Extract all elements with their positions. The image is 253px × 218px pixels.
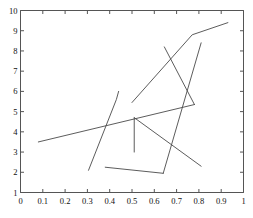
x-tick-label: 0.4 [104, 196, 115, 206]
y-tick-label: 3 [13, 147, 17, 157]
x-tick-label: 0.6 [149, 196, 160, 206]
x-tick-label: 0.1 [37, 196, 48, 206]
y-tick-label: 2 [13, 167, 17, 177]
y-tick-label: 10 [9, 6, 18, 16]
y-tick-label: 7 [13, 66, 17, 76]
y-tick-label: 5 [13, 107, 17, 117]
line-chart: 00.10.20.30.40.50.60.70.80.91 1234567891… [0, 0, 253, 218]
plot-area [0, 0, 253, 218]
x-tick-label: 1 [241, 196, 245, 206]
x-tick-label: 0.7 [171, 196, 182, 206]
x-tick-label: 0.9 [216, 196, 227, 206]
x-tick-label: 0.8 [194, 196, 205, 206]
y-tick-label: 1 [13, 188, 17, 198]
y-tick-label: 9 [13, 26, 17, 36]
plot-background [0, 0, 253, 218]
x-tick-label: 0 [18, 196, 22, 206]
y-tick-label: 6 [13, 86, 17, 96]
x-tick-label: 0.2 [60, 196, 71, 206]
x-tick-label: 0.3 [82, 196, 93, 206]
x-tick-label: 0.5 [127, 196, 138, 206]
y-tick-label: 8 [13, 46, 17, 56]
y-tick-label: 4 [13, 127, 17, 137]
